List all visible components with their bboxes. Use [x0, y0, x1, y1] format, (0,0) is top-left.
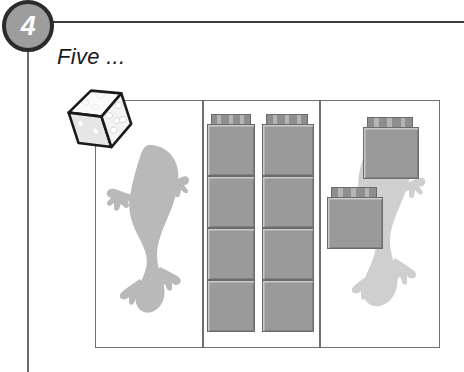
brick-body [207, 124, 255, 176]
step-number-badge: 4 [2, 0, 54, 52]
step-number-label: 4 [21, 13, 36, 40]
panel-gecko-with-bricks [321, 101, 439, 347]
instruction-step-page: 4 Five ... [0, 0, 464, 372]
brick-body [207, 176, 255, 228]
gecko-silhouette-icon [102, 139, 194, 329]
brick-with-studs [207, 114, 255, 176]
brick-body [262, 280, 314, 332]
step-horizontal-rule [46, 21, 464, 23]
brick-body [207, 228, 255, 280]
brick-body [262, 228, 314, 280]
step-illustration-frame [95, 100, 440, 348]
brick-with-studs [262, 114, 314, 176]
brick-body [363, 127, 419, 179]
panel-brick-stacks [204, 101, 319, 347]
brick-body [327, 197, 383, 249]
floating-brick-upper [363, 117, 419, 179]
brick-body [262, 176, 314, 228]
step-vertical-rule [27, 45, 29, 372]
five-pip-die [57, 82, 139, 162]
brick-body [207, 280, 255, 332]
floating-brick-lower [327, 187, 383, 249]
brick-body [262, 124, 314, 176]
step-caption: Five ... [57, 44, 125, 70]
